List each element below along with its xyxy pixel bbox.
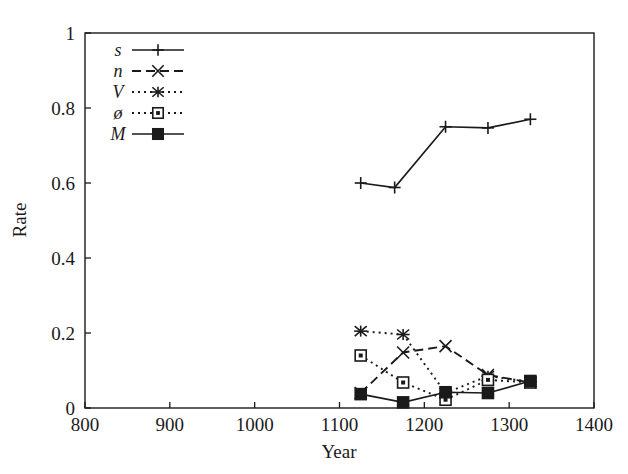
marker-filled-square	[525, 376, 536, 387]
chart-figure: 80090010001100120013001400 00.20.40.60.8…	[0, 0, 628, 474]
y-tick-label: 0.2	[51, 323, 75, 344]
y-tick-label: 0.8	[51, 98, 75, 119]
legend-label-ø: ø	[113, 103, 124, 123]
chart-canvas: 80090010001100120013001400 00.20.40.60.8…	[0, 0, 628, 474]
x-tick-label: 1100	[321, 414, 358, 435]
marker-filled-square	[482, 388, 493, 399]
x-tick-label: 1000	[236, 414, 274, 435]
marker-open-square-dot	[401, 381, 405, 385]
marker-open-square-dot	[359, 354, 363, 358]
x-tick-label: 1300	[490, 414, 528, 435]
legend-label-M: M	[110, 124, 127, 144]
chart-legend: snVøM	[110, 40, 185, 144]
y-axis-title: Rate	[9, 203, 30, 238]
y-tick-label: 1	[66, 23, 76, 44]
data-series-group	[354, 113, 537, 408]
x-tick-label: 800	[71, 414, 100, 435]
y-tick-label: 0.4	[51, 248, 75, 269]
x-axis-ticks: 80090010001100120013001400	[71, 402, 613, 435]
marker-open-square-dot	[156, 111, 160, 115]
marker-filled-square	[355, 389, 366, 400]
legend-label-s: s	[114, 40, 121, 60]
y-tick-label: 0.6	[51, 173, 75, 194]
x-tick-label: 900	[156, 414, 185, 435]
x-tick-label: 1400	[575, 414, 613, 435]
marker-filled-square	[153, 129, 163, 139]
marker-filled-square	[440, 387, 451, 398]
x-axis-title: Year	[321, 441, 357, 462]
x-tick-label: 1200	[405, 414, 443, 435]
legend-label-V: V	[113, 82, 126, 102]
marker-open-square-dot	[486, 378, 490, 382]
series-s	[355, 113, 537, 193]
legend-label-n: n	[114, 61, 123, 81]
marker-filled-square	[398, 397, 409, 408]
series-line-V	[361, 331, 531, 393]
y-tick-label: 0	[66, 398, 76, 419]
